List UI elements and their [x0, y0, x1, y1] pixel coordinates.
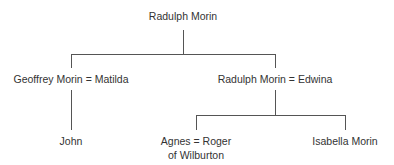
family-tree-diagram: Radulph Morin Geoffrey Morin = Matilda R… [0, 0, 394, 165]
connector-radulph-edwina-down [275, 90, 276, 115]
node-radulph-edwina: Radulph Morin = Edwina [218, 72, 333, 86]
connector-to-geoffrey [71, 54, 72, 68]
connector-root-horizontal [71, 54, 276, 55]
connector-children-horizontal [196, 115, 346, 116]
node-john: John [60, 134, 83, 148]
node-agnes-roger: Agnes = Roger of Wilburton [157, 134, 235, 162]
node-radulph-morin: Radulph Morin [149, 9, 217, 23]
connector-to-isabella [345, 115, 346, 130]
connector-to-radulph-edwina [275, 54, 276, 68]
connector-root-down [183, 30, 184, 54]
connector-geoffrey-to-john [71, 90, 72, 130]
node-isabella-morin: Isabella Morin [312, 134, 377, 148]
connector-to-agnes [196, 115, 197, 130]
node-geoffrey-matilda: Geoffrey Morin = Matilda [13, 72, 128, 86]
